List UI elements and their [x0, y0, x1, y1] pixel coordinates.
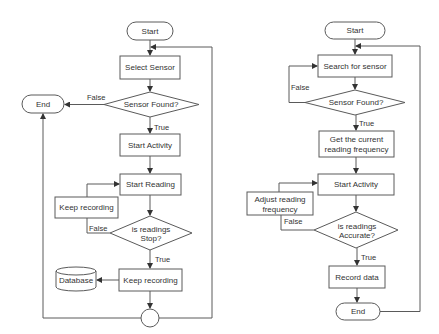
flowchart-figure: Start Select Sensor Sensor Found? False … — [0, 0, 439, 334]
left-keep-recording-loop-box: Keep recording — [55, 197, 118, 218]
right-start-activity-label: Start Activity — [334, 180, 378, 189]
right-flowchart: Start Search for sensor Sensor Found? Fa… — [247, 22, 420, 320]
right-end-label: End — [351, 307, 365, 316]
database-label: Database — [59, 276, 94, 285]
right-readings-accurate-label-2: Accurate? — [339, 231, 376, 240]
right-false-label: False — [291, 83, 309, 92]
right-readings-accurate-label-1: is readings — [338, 222, 377, 231]
left-select-sensor-box: Select Sensor — [120, 56, 180, 79]
left-keep-recording-box: Keep recording — [119, 269, 182, 291]
right-end-terminal: End — [336, 303, 380, 320]
left-readings-stop-label-2: Stop? — [141, 234, 162, 243]
left-sensor-found-decision: Sensor Found? — [104, 92, 199, 117]
left-true-label-1: True — [154, 123, 169, 132]
left-readings-stop-label-1: is readings — [132, 225, 171, 234]
left-sensor-found-label: Sensor Found? — [124, 100, 179, 109]
right-start-terminal: Start — [325, 22, 385, 39]
right-search-sensor-label: Search for sensor — [323, 62, 386, 71]
left-false-label-2: False — [89, 224, 107, 233]
right-get-frequency-label-2: reading frequency — [324, 145, 388, 154]
right-record-data-label: Record data — [335, 273, 379, 282]
right-search-sensor-box: Search for sensor — [318, 55, 392, 77]
right-false-label-2: False — [284, 217, 302, 226]
left-true-label-2: True — [155, 255, 170, 264]
left-false-label: False — [87, 93, 105, 102]
right-record-data-box: Record data — [329, 266, 385, 288]
left-start-label: Start — [142, 27, 160, 36]
right-adjust-frequency-box: Adjust reading frequency — [247, 192, 313, 215]
left-start-reading-label: Start Reading — [126, 180, 175, 189]
right-sensor-found-decision: Sensor Found? — [305, 90, 405, 115]
left-start-reading-box: Start Reading — [120, 174, 181, 195]
right-start-activity-box: Start Activity — [318, 174, 394, 195]
left-keep-recording-label: Keep recording — [123, 276, 177, 285]
connector-circle — [141, 309, 159, 327]
left-start-terminal: Start — [127, 22, 173, 40]
right-get-frequency-box: Get the current reading frequency — [319, 131, 394, 157]
left-select-sensor-label: Select Sensor — [125, 63, 175, 72]
right-true-label-2: True — [361, 253, 376, 262]
left-start-activity-label: Start Activity — [128, 141, 172, 150]
right-adjust-frequency-label-1: Adjust reading — [254, 195, 305, 204]
database-icon: Database — [56, 267, 96, 291]
left-flowchart: Start Select Sensor Sensor Found? False … — [22, 22, 212, 327]
left-readings-stop-decision: is readings Stop? — [110, 216, 192, 250]
right-adjust-frequency-label-2: frequency — [262, 205, 297, 214]
right-edge-adjust-activity — [279, 183, 317, 192]
right-true-label-1: True — [359, 119, 374, 128]
left-start-activity-box: Start Activity — [120, 134, 180, 156]
left-end-terminal: End — [22, 95, 64, 113]
left-keep-recording-loop-label: Keep recording — [59, 203, 113, 212]
right-get-frequency-label-1: Get the current — [330, 135, 384, 144]
right-sensor-found-label: Sensor Found? — [329, 98, 384, 107]
right-readings-accurate-decision: is readings Accurate? — [314, 212, 398, 248]
left-edge-keeprec-reading — [87, 184, 119, 197]
left-end-label: End — [36, 100, 50, 109]
right-start-label: Start — [347, 26, 365, 35]
